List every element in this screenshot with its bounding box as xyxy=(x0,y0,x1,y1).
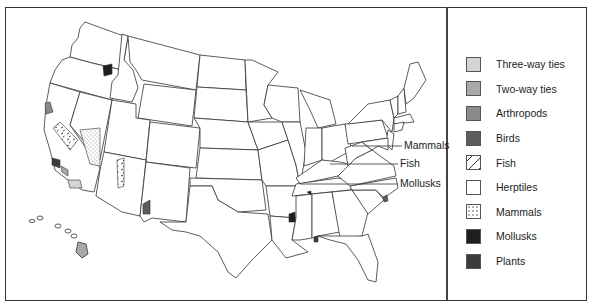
legend-label: Birds xyxy=(496,132,520,144)
hawaii-islands xyxy=(29,216,88,258)
legend-item-mollusks: Mollusks xyxy=(466,224,586,249)
legend-item-birds: Birds xyxy=(466,126,586,151)
state-connecticut xyxy=(394,122,404,132)
legend-label: Mammals xyxy=(496,206,542,218)
region-threeway-ca xyxy=(68,180,82,188)
us-map xyxy=(0,0,446,308)
callout-fish: Fish xyxy=(400,157,420,169)
swatch-mollusks xyxy=(466,229,481,244)
region-plants-ca xyxy=(52,158,60,168)
state-kansas xyxy=(196,148,262,180)
region-mollusks-al xyxy=(289,212,295,222)
swatch-herptiles xyxy=(466,180,481,195)
state-south-dakota xyxy=(194,87,248,122)
swatch-birds xyxy=(466,131,481,146)
legend-label: Herptiles xyxy=(496,181,537,193)
legend-item-arthropods: Arthropods xyxy=(466,101,586,126)
state-montana xyxy=(128,36,200,90)
swatch-three-way-ties xyxy=(466,57,481,72)
state-michigan xyxy=(300,90,336,128)
legend-label: Plants xyxy=(496,255,525,267)
state-colorado xyxy=(146,122,200,168)
legend-label: Arthropods xyxy=(496,107,547,119)
state-maine xyxy=(404,62,426,104)
legend-item-two-way-ties: Two-way ties xyxy=(466,77,586,102)
state-north-dakota xyxy=(197,55,246,90)
region-mollusks-idaho xyxy=(103,64,112,76)
legend: Three-way ties Two-way ties Arthropods B… xyxy=(466,52,586,273)
legend-label: Three-way ties xyxy=(496,58,565,70)
swatch-mammals xyxy=(466,204,481,219)
legend-label: Two-way ties xyxy=(496,83,557,95)
legend-item-herptiles: Herptiles xyxy=(466,175,586,200)
region-plants-fl xyxy=(314,236,318,242)
legend-item-three-way-ties: Three-way ties xyxy=(466,52,586,77)
legend-item-fish: Fish xyxy=(466,150,586,175)
legend-item-mammals: Mammals xyxy=(466,200,586,225)
legend-divider xyxy=(446,7,448,301)
legend-label: Fish xyxy=(496,157,516,169)
callout-mollusks: Mollusks xyxy=(400,177,441,189)
swatch-plants xyxy=(466,254,481,269)
state-florida xyxy=(318,234,378,282)
swatch-fish xyxy=(466,155,481,170)
region-fish-ut xyxy=(117,158,124,188)
swatch-arthropods xyxy=(466,106,481,121)
legend-item-plants: Plants xyxy=(466,249,586,274)
swatch-two-way-ties xyxy=(466,81,481,96)
callout-mammals: Mammals xyxy=(404,139,450,151)
legend-label: Mollusks xyxy=(496,230,537,242)
state-indiana xyxy=(304,128,322,166)
